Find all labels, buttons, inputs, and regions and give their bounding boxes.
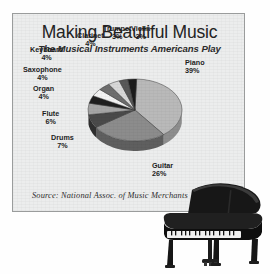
pie-label-piano: Piano 39% xyxy=(185,59,205,76)
pie-label-violin: Violin 3% xyxy=(131,25,150,42)
pie-top-faces xyxy=(88,79,182,141)
pie-label-drums: Drums 7% xyxy=(51,134,74,151)
pie-chart-svg xyxy=(75,56,195,168)
pie-label-organ: Organ 4% xyxy=(33,85,54,102)
pie-label-flute: Flute 6% xyxy=(42,110,59,127)
screenshot-canvas: Making Beautiful Music The Musical Instr… xyxy=(0,0,270,274)
pie-label-trumpet: Trumpet 3% xyxy=(103,25,131,42)
pie-label-keyboard: Keyboard 4% xyxy=(30,46,63,63)
pie-label-saxophone: Saxophone 4% xyxy=(23,66,62,83)
grand-piano-photo xyxy=(152,176,270,274)
pie-label-clarinet: Clarinet 4% xyxy=(77,32,104,49)
